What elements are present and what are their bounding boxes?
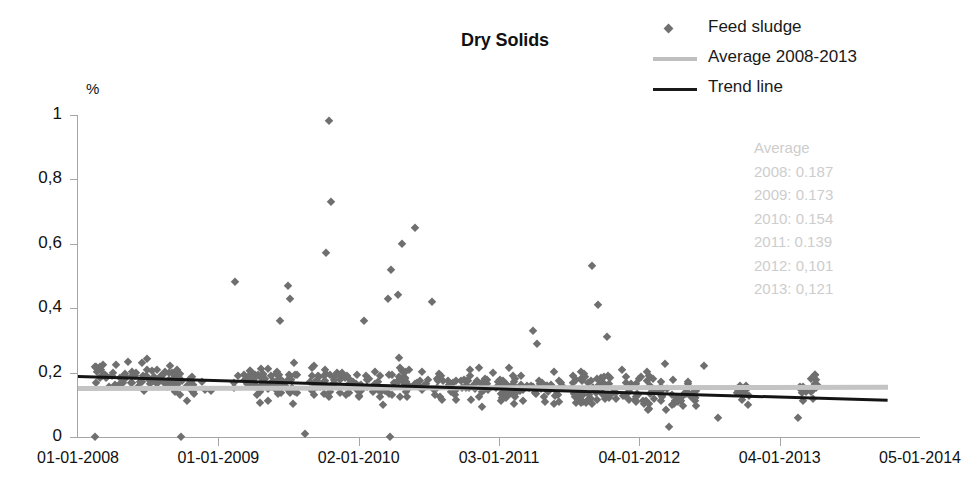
- data-point: [324, 117, 333, 126]
- data-point: [410, 223, 419, 232]
- plot-area: [78, 115, 920, 437]
- x-axis-tick-label: 01-01-2009: [153, 449, 283, 467]
- legend-label-trend: Trend line: [708, 77, 783, 97]
- x-axis-tick-label: 05-01-2014: [855, 449, 966, 467]
- y-axis-tick: [70, 308, 77, 309]
- data-point: [124, 358, 133, 367]
- data-point: [378, 401, 387, 410]
- data-point: [437, 396, 446, 405]
- y-axis-unit-label: %: [86, 80, 99, 97]
- data-point: [669, 376, 678, 385]
- legend-key-feed-sludge: [640, 14, 698, 44]
- data-point: [713, 413, 722, 422]
- data-point: [532, 339, 541, 348]
- x-axis-tick: [499, 438, 500, 446]
- y-axis-tick: [70, 115, 77, 116]
- chart-container: Dry Solids Feed sludge Average 2008-2013…: [0, 0, 966, 495]
- x-axis-tick-label: 03-01-2011: [434, 449, 564, 467]
- x-axis-tick: [639, 438, 640, 446]
- data-point: [398, 239, 407, 248]
- y-axis-tick-label: 0,2: [6, 362, 62, 382]
- data-point: [383, 294, 392, 303]
- data-point: [660, 359, 669, 368]
- y-axis-tick-label: 0,8: [6, 168, 62, 188]
- data-point: [289, 399, 298, 408]
- data-point: [549, 367, 558, 376]
- data-point: [276, 317, 285, 326]
- legend-key-trend: [640, 74, 698, 104]
- data-point: [286, 294, 295, 303]
- data-point: [477, 403, 486, 412]
- y-axis-tick-label: 0,4: [6, 297, 62, 317]
- data-point: [587, 262, 596, 271]
- data-point: [322, 249, 331, 258]
- y-axis-tick: [70, 244, 77, 245]
- x-axis-tick-label: 04-01-2012: [574, 449, 704, 467]
- y-axis-tick: [70, 437, 77, 438]
- data-point: [475, 364, 484, 373]
- legend-label-feed-sludge: Feed sludge: [708, 17, 802, 37]
- data-point: [793, 413, 802, 422]
- y-axis-tick: [70, 373, 77, 374]
- data-point: [283, 281, 292, 290]
- data-point: [602, 333, 611, 342]
- x-axis-tick: [780, 438, 781, 446]
- x-axis-tick: [359, 438, 360, 446]
- data-point: [528, 326, 537, 335]
- data-point: [263, 396, 272, 405]
- data-point: [387, 265, 396, 274]
- data-point: [90, 432, 99, 441]
- legend-key-average: [640, 44, 698, 74]
- data-point: [394, 354, 403, 363]
- data-point: [301, 429, 310, 438]
- data-point: [289, 358, 298, 367]
- diamond-marker-icon: [664, 24, 674, 34]
- legend-label-average: Average 2008-2013: [708, 47, 857, 67]
- y-axis-tick-label: 1: [6, 104, 62, 124]
- data-point: [176, 432, 185, 441]
- data-point: [230, 278, 239, 287]
- data-point: [509, 400, 518, 409]
- data-point: [594, 300, 603, 309]
- line-swatch-icon: [653, 57, 697, 61]
- data-point: [393, 291, 402, 300]
- data-point: [488, 368, 497, 377]
- page-title: Dry Solids: [425, 30, 585, 51]
- y-axis-tick-label: 0: [6, 426, 62, 446]
- line-swatch-icon: [653, 88, 697, 91]
- x-axis-tick-label: 02-01-2010: [294, 449, 424, 467]
- data-point: [385, 432, 394, 441]
- data-point: [700, 362, 709, 371]
- x-axis-tick: [218, 438, 219, 446]
- y-axis-tick: [70, 179, 77, 180]
- x-axis-tick-label: 04-01-2013: [715, 449, 845, 467]
- x-axis-tick-label: 01-01-2008: [13, 449, 143, 467]
- data-point: [360, 317, 369, 326]
- data-point: [183, 397, 192, 406]
- data-point: [326, 197, 335, 206]
- data-point: [427, 297, 436, 306]
- data-point: [519, 397, 528, 406]
- data-point: [417, 368, 426, 377]
- y-axis-tick-label: 0,6: [6, 233, 62, 253]
- data-point: [665, 423, 674, 432]
